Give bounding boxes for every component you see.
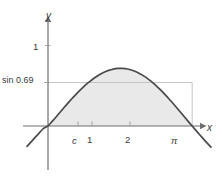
sine-curve-area-figure: y x 1 sin 0.69 c 1 2 π	[0, 0, 222, 179]
y-axis-label: y	[46, 11, 51, 21]
x-axis-arrow-icon	[200, 123, 207, 130]
plot-canvas	[0, 0, 222, 179]
y-tick-label-1: 1	[33, 42, 38, 52]
y-tick-label-sin-069: sin 0.69	[2, 76, 34, 85]
x-tick-label-c: c	[72, 136, 77, 146]
x-axis-label: x	[207, 123, 212, 133]
x-tick-label-pi: π	[171, 136, 177, 146]
x-tick-label-2: 2	[125, 135, 130, 145]
x-tick-label-1: 1	[87, 135, 92, 145]
shaded-area-under-curve	[48, 68, 192, 126]
